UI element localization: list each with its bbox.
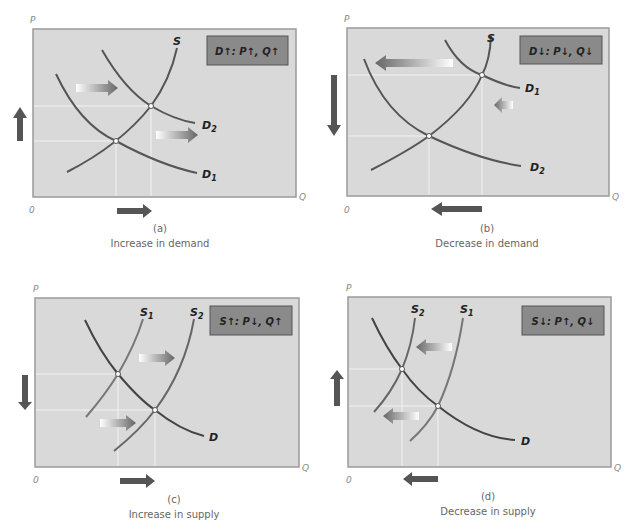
equilibrium-point: [400, 367, 405, 372]
panel-d: P Q 0 S2 S1 D S↓: P↑, Q↓ (d) Decrease in…: [330, 283, 621, 517]
panel-c: P Q 0 S1 S2 D S↑: P↓, Q↑ (c) Increase in…: [18, 284, 309, 520]
price-down-arrow-icon: [327, 75, 341, 136]
price-up-arrow-icon: [13, 107, 27, 141]
price-up-arrow-icon: [330, 370, 344, 406]
equilibrium-point: [116, 372, 121, 377]
curve-label-S: S: [487, 32, 495, 45]
equilibrium-point: [114, 139, 119, 144]
summary-text: S↑: P↓, Q↑: [220, 316, 283, 327]
curve-label-S: S: [173, 35, 181, 48]
panel-letter: (a): [153, 223, 167, 234]
x-axis-label: Q: [299, 192, 306, 202]
origin-label: 0: [33, 475, 39, 485]
y-axis-label: P: [30, 15, 36, 25]
summary-text: D↑: P↑, Q↑: [215, 46, 279, 57]
panel-b: P Q 0 S D1 D2 D↓: P↓, Q↓ (b) Decrease in…: [327, 14, 619, 249]
origin-label: 0: [346, 475, 352, 485]
panel-caption: Decrease in supply: [440, 506, 535, 517]
price-down-arrow-icon: [18, 375, 32, 410]
y-axis-label: P: [346, 283, 352, 293]
curve-label-D: D: [209, 431, 218, 444]
x-axis-label: Q: [614, 463, 621, 473]
panel-caption: Decrease in demand: [435, 238, 538, 249]
equilibrium-point: [436, 404, 441, 409]
summary-text: S↓: P↑, Q↓: [532, 316, 595, 327]
quantity-left-arrow-icon: [403, 472, 438, 486]
equilibrium-point: [149, 104, 154, 109]
origin-label: 0: [344, 205, 350, 215]
x-axis-label: Q: [302, 463, 309, 473]
panel-letter: (c): [167, 494, 180, 505]
x-axis-label: Q: [612, 192, 619, 202]
panel-letter: (b): [480, 223, 494, 234]
quantity-right-arrow-icon: [117, 204, 152, 218]
panel-caption: Increase in demand: [111, 238, 210, 249]
panel-a: P Q 0 S D2 D1 D↑: P↑, Q↑ (a) Increase in…: [13, 15, 306, 249]
panel-letter: (d): [481, 491, 495, 502]
origin-label: 0: [29, 205, 35, 215]
y-axis-label: P: [33, 284, 39, 294]
equilibrium-point: [480, 73, 485, 78]
equilibrium-point: [427, 134, 432, 139]
panel-caption: Increase in supply: [129, 509, 220, 520]
summary-text: D↓: P↓, Q↓: [529, 46, 593, 57]
y-axis-label: P: [344, 14, 350, 24]
curve-label-D: D: [521, 435, 530, 448]
supply-demand-figure: P Q 0 S D2 D1 D↑: P↑, Q↑ (a) Increase in…: [0, 0, 637, 532]
quantity-left-arrow-icon: [431, 202, 482, 216]
quantity-right-arrow-icon: [120, 474, 155, 488]
equilibrium-point: [153, 408, 158, 413]
